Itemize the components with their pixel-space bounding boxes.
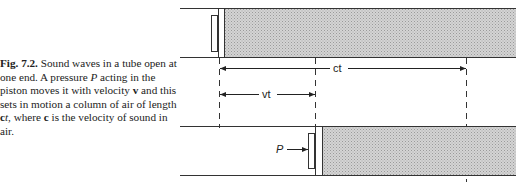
pressure-label: P	[276, 143, 284, 155]
ct-label: ct	[333, 62, 342, 74]
ct-dimension: ct	[220, 62, 466, 74]
air-column-shading	[322, 127, 516, 175]
piston-plate	[309, 134, 315, 169]
air-column-shading	[224, 9, 516, 57]
piston-plate	[212, 16, 218, 52]
vt-dimension: vt	[220, 88, 315, 100]
top-tube	[180, 9, 516, 58]
bottom-tube: P	[180, 127, 516, 176]
vt-label: vt	[262, 88, 271, 100]
tube-diagram: ct vt P	[0, 0, 523, 189]
